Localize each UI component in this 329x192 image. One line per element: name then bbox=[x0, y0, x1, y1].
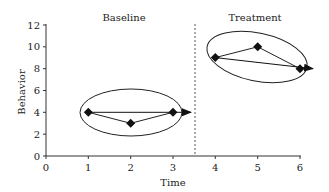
single-case-design-chart: 0 2 4 6 8 10 12 0 1 2 3 4 5 6 Time Behav… bbox=[0, 0, 329, 192]
y-tick-labels: 0 2 4 6 8 10 12 bbox=[27, 20, 40, 162]
y-axis bbox=[43, 24, 46, 156]
baseline-point-3 bbox=[169, 108, 178, 117]
phase-label-baseline: Baseline bbox=[102, 12, 145, 23]
x-tick-labels: 0 1 2 3 4 5 6 bbox=[43, 162, 303, 173]
y-tick-2: 2 bbox=[34, 129, 40, 140]
x-axis-title: Time bbox=[160, 177, 185, 188]
x-axis bbox=[46, 156, 301, 159]
x-tick-0: 0 bbox=[43, 162, 49, 173]
x-tick-4: 4 bbox=[212, 162, 218, 173]
y-tick-12: 12 bbox=[27, 20, 40, 31]
y-tick-4: 4 bbox=[34, 107, 40, 118]
x-tick-3: 3 bbox=[170, 162, 176, 173]
baseline-point-2 bbox=[126, 119, 135, 128]
treatment-phase bbox=[202, 23, 313, 91]
x-tick-1: 1 bbox=[85, 162, 91, 173]
x-tick-6: 6 bbox=[297, 162, 303, 173]
baseline-phase bbox=[80, 89, 191, 136]
treatment-point-2 bbox=[253, 42, 262, 51]
phase-label-treatment: Treatment bbox=[228, 12, 281, 23]
y-axis-title: Behavior bbox=[16, 69, 27, 115]
y-tick-6: 6 bbox=[34, 85, 40, 96]
y-tick-10: 10 bbox=[27, 41, 40, 52]
y-tick-8: 8 bbox=[34, 63, 40, 74]
y-tick-0: 0 bbox=[34, 151, 40, 162]
treatment-point-3 bbox=[296, 64, 305, 73]
baseline-point-1 bbox=[84, 108, 93, 117]
x-tick-5: 5 bbox=[255, 162, 261, 173]
x-tick-2: 2 bbox=[128, 162, 134, 173]
